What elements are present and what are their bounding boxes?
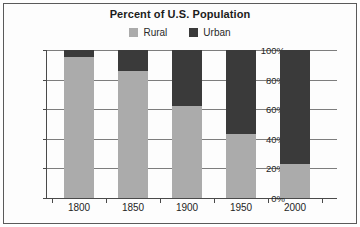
legend-swatch-rural-icon (129, 28, 138, 37)
xtick-mark-2 (160, 199, 161, 203)
xtick-label-1850: 1850 (108, 202, 158, 213)
bar-2000 (280, 50, 310, 198)
xtick-mark-0 (52, 199, 53, 203)
ytick-mark-40 (43, 139, 47, 140)
xtick-label-1900: 1900 (162, 202, 212, 213)
xtick-label-2000: 2000 (270, 202, 320, 213)
bar-segment-rural-1800 (64, 57, 94, 198)
ytick-mark-20 (43, 168, 47, 169)
plot-area: 100% 80% 60% 40% 20% 0% (47, 50, 337, 198)
xtick-mark-1 (106, 199, 107, 203)
y-axis-line (46, 50, 47, 198)
bar-segment-urban-1850 (118, 50, 148, 71)
bar-segment-rural-1950 (226, 134, 256, 198)
bar-1850 (118, 50, 148, 198)
bar-segment-rural-1850 (118, 71, 148, 198)
bar-segment-urban-1900 (172, 50, 202, 106)
bar-segment-urban-1950 (226, 50, 256, 134)
bar-segment-urban-1800 (64, 50, 94, 57)
legend-label-rural: Rural (143, 27, 167, 38)
chart-title: Percent of U.S. Population (0, 8, 360, 20)
bar-1800 (64, 50, 94, 198)
bar-segment-rural-1900 (172, 106, 202, 198)
xtick-label-1800: 1800 (54, 202, 104, 213)
xtick-mark-5 (322, 199, 323, 203)
ytick-mark-0 (43, 198, 47, 199)
legend-item-urban: Urban (189, 27, 230, 38)
legend-label-urban: Urban (203, 27, 230, 38)
bar-1950 (226, 50, 256, 198)
xtick-mark-3 (214, 199, 215, 203)
bar-segment-rural-2000 (280, 164, 310, 198)
chart-legend: Rural Urban (0, 27, 360, 38)
bar-1900 (172, 50, 202, 198)
chart-page: Percent of U.S. Population Rural Urban 1… (0, 0, 360, 227)
xtick-mark-4 (268, 199, 269, 203)
legend-swatch-urban-icon (189, 28, 198, 37)
legend-item-rural: Rural (129, 27, 167, 38)
ytick-mark-80 (43, 80, 47, 81)
xtick-label-1950: 1950 (216, 202, 266, 213)
ytick-mark-60 (43, 109, 47, 110)
ytick-mark-100 (43, 50, 47, 51)
bar-segment-urban-2000 (280, 50, 310, 164)
x-axis-line (46, 198, 337, 199)
